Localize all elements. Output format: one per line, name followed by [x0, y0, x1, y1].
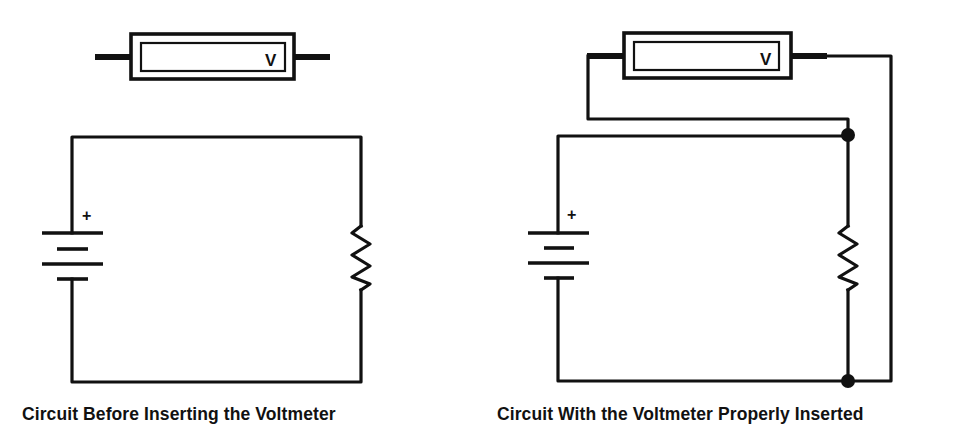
left-battery-plus-sign: + — [82, 207, 91, 224]
right-wire-bottom — [558, 278, 848, 381]
left-wire-bottom — [72, 279, 361, 382]
left-resistor-icon — [352, 226, 370, 290]
right-battery-plus-sign: + — [567, 206, 576, 223]
right-voltmeter-display — [634, 42, 779, 70]
left-wire-top — [72, 137, 361, 233]
right-voltmeter-label: V — [760, 50, 772, 69]
right-circuit: V + — [528, 33, 891, 388]
left-voltmeter-display — [141, 43, 285, 71]
right-voltmeter: V — [587, 33, 827, 78]
left-circuit: V + — [42, 34, 370, 382]
right-resistor-icon — [839, 226, 857, 290]
left-voltmeter-label: V — [265, 51, 277, 70]
caption-before-voltmeter: Circuit Before Inserting the Voltmeter — [22, 404, 336, 425]
right-wire-top — [558, 136, 848, 233]
right-junction-top-icon — [841, 128, 855, 142]
circuit-diagram: V + V — [0, 0, 964, 433]
right-junction-bottom-icon — [841, 374, 855, 388]
caption-with-voltmeter: Circuit With the Voltmeter Properly Inse… — [497, 404, 864, 425]
left-voltmeter: V — [95, 34, 330, 79]
right-voltmeter-wire-right — [826, 56, 891, 381]
